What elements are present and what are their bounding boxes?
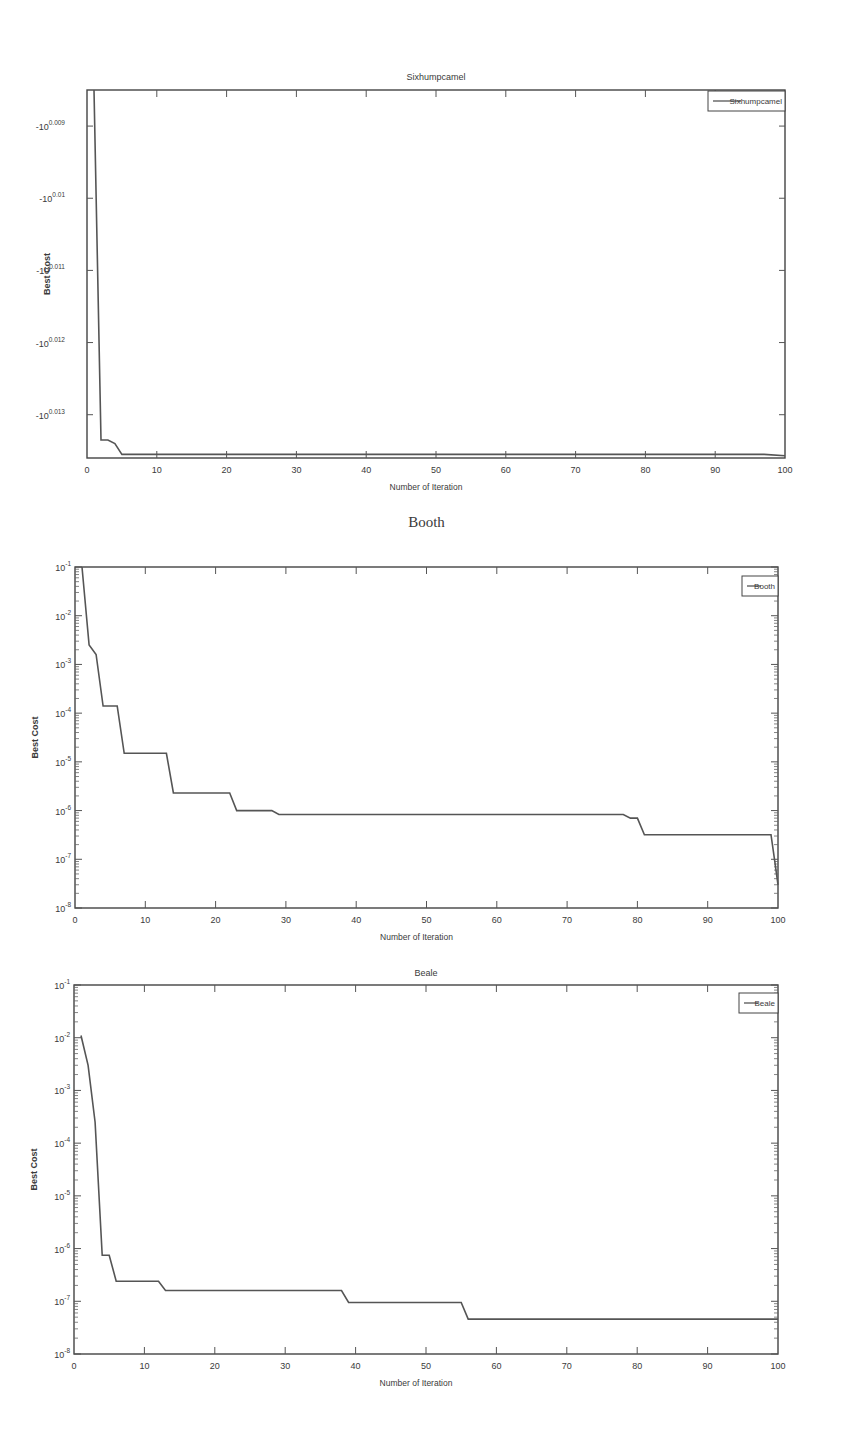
x-tick-label: 50 xyxy=(421,915,431,925)
y-tick-label: 10-5 xyxy=(55,755,71,768)
x-tick-label: 60 xyxy=(492,915,502,925)
legend: Booth xyxy=(742,576,778,596)
x-tick-label: 10 xyxy=(152,465,162,475)
x-axis-label: Number of Iteration xyxy=(380,932,453,942)
plot-area xyxy=(75,567,778,908)
x-tick-label: 90 xyxy=(710,465,720,475)
sixhumpcamel-figure: Sixhumpcamel0102030405060708090100Number… xyxy=(0,0,854,500)
x-tick-label: 90 xyxy=(703,1361,713,1371)
y-tick-label: 10-6 xyxy=(55,804,71,817)
series-line xyxy=(94,90,785,456)
x-tick-label: 80 xyxy=(640,465,650,475)
x-tick-label: 10 xyxy=(139,1361,149,1371)
x-tick-label: 30 xyxy=(291,465,301,475)
y-tick-label: -100.013 xyxy=(36,408,66,421)
y-tick-label: 10-1 xyxy=(54,978,70,991)
y-axis-label: Best Cost xyxy=(29,1148,39,1190)
y-tick-label: 10-8 xyxy=(55,901,71,914)
y-tick-label: 10-1 xyxy=(55,560,71,573)
series-line xyxy=(82,567,778,885)
x-tick-label: 30 xyxy=(281,915,291,925)
chart-title: Beale xyxy=(414,968,437,978)
beale-chart: Beale0102030405060708090100Number of Ite… xyxy=(0,950,854,1447)
y-tick-label: 10-7 xyxy=(54,1294,70,1307)
y-tick-label: 10-3 xyxy=(54,1083,70,1096)
x-tick-label: 60 xyxy=(501,465,511,475)
x-tick-label: 60 xyxy=(491,1361,501,1371)
legend-label: Beale xyxy=(755,999,776,1008)
x-tick-label: 0 xyxy=(84,465,89,475)
booth-chart: Booth0102030405060708090100Number of Ite… xyxy=(0,500,854,950)
plot-area xyxy=(87,90,785,458)
x-tick-label: 50 xyxy=(431,465,441,475)
legend-label: Sixhumpcamel xyxy=(730,97,783,106)
legend: Beale xyxy=(739,993,778,1013)
x-tick-label: 80 xyxy=(632,915,642,925)
x-tick-label: 80 xyxy=(632,1361,642,1371)
x-tick-label: 100 xyxy=(770,1361,785,1371)
y-tick-label: 10-3 xyxy=(55,657,71,670)
y-tick-label: -100.01 xyxy=(39,191,65,204)
y-tick-label: 10-5 xyxy=(54,1189,70,1202)
plot-area xyxy=(74,985,778,1354)
x-tick-label: 50 xyxy=(421,1361,431,1371)
x-tick-label: 100 xyxy=(770,915,785,925)
x-tick-label: 10 xyxy=(140,915,150,925)
y-tick-label: 10-6 xyxy=(54,1242,70,1255)
x-tick-label: 40 xyxy=(361,465,371,475)
beale-figure: Beale0102030405060708090100Number of Ite… xyxy=(0,950,854,1447)
legend: Sixhumpcamel xyxy=(708,91,785,111)
x-tick-label: 70 xyxy=(562,915,572,925)
x-tick-label: 40 xyxy=(351,915,361,925)
series-line xyxy=(81,1036,778,1320)
y-axis-label: Best Cost xyxy=(30,716,40,758)
x-axis-label: Number of Iteration xyxy=(380,1378,453,1388)
y-tick-label: 10-2 xyxy=(55,609,71,622)
chart-title: Sixhumpcamel xyxy=(406,72,465,82)
y-tick-label: 10-4 xyxy=(55,706,71,719)
y-tick-label: 10-7 xyxy=(55,852,71,865)
y-tick-label: 10-4 xyxy=(54,1136,70,1149)
x-tick-label: 90 xyxy=(703,915,713,925)
x-tick-label: 0 xyxy=(71,1361,76,1371)
x-tick-label: 70 xyxy=(571,465,581,475)
legend-label: Booth xyxy=(754,582,775,591)
x-tick-label: 70 xyxy=(562,1361,572,1371)
sixhumpcamel-chart: Sixhumpcamel0102030405060708090100Number… xyxy=(0,0,854,500)
x-axis-label: Number of Iteration xyxy=(390,482,463,492)
y-tick-label: 10-2 xyxy=(54,1031,70,1044)
x-tick-label: 30 xyxy=(280,1361,290,1371)
x-tick-label: 20 xyxy=(222,465,232,475)
y-tick-label: -100.009 xyxy=(36,119,66,132)
y-tick-label: -100.012 xyxy=(36,336,66,349)
x-tick-label: 20 xyxy=(210,1361,220,1371)
chart-title: Booth xyxy=(408,514,445,530)
x-tick-label: 0 xyxy=(72,915,77,925)
x-tick-label: 40 xyxy=(351,1361,361,1371)
x-tick-label: 20 xyxy=(211,915,221,925)
booth-figure: Booth0102030405060708090100Number of Ite… xyxy=(0,500,854,950)
y-tick-label: 10-8 xyxy=(54,1347,70,1360)
x-tick-label: 100 xyxy=(777,465,792,475)
